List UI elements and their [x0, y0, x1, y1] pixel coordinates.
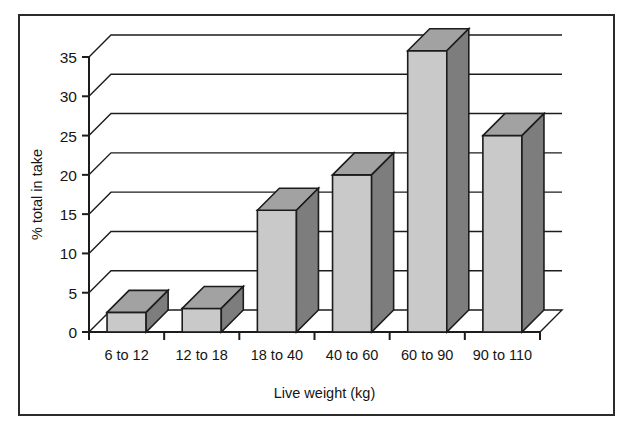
x-axis-category-label: 6 to 12: [104, 347, 148, 363]
y-axis-tick-label: 15: [60, 206, 77, 223]
x-axis-category-label: 60 to 90: [401, 347, 453, 363]
bar-column: [333, 153, 394, 332]
gridline: [89, 74, 562, 96]
bar-column: [408, 29, 469, 332]
x-axis-category-label: 12 to 18: [176, 347, 228, 363]
x-axis-category-label: 40 to 60: [326, 347, 378, 363]
bar-column: [257, 188, 318, 332]
bar-front-face: [408, 51, 447, 332]
y-axis-tick-label: 20: [60, 167, 78, 184]
bar-front-face: [333, 175, 372, 332]
y-axis-tick-label: 0: [68, 324, 77, 341]
y-axis-title: % total in take: [29, 149, 45, 240]
bar-side-face: [296, 188, 318, 332]
gridline-path: [89, 35, 562, 57]
bar-side-face: [447, 29, 469, 332]
bar-front-face: [182, 308, 221, 332]
bar-side-face: [372, 153, 394, 332]
y-axis-tick-label: 25: [60, 128, 77, 145]
chart-border-frame: 051015202530356 to 1212 to 1818 to 4040 …: [18, 14, 615, 416]
y-axis-tick-label: 10: [60, 245, 78, 262]
chart-figure: 051015202530356 to 1212 to 1818 to 4040 …: [0, 0, 632, 433]
x-axis-category-label: 90 to 110: [473, 347, 532, 363]
x-axis-category-label: 18 to 40: [251, 347, 303, 363]
bar-front-face: [107, 312, 146, 332]
y-axis-tick-label: 35: [60, 49, 77, 66]
bar-column: [483, 114, 544, 332]
y-axis-tick-label: 5: [68, 285, 77, 302]
y-axis-tick-label: 30: [60, 88, 78, 105]
x-axis-title: Live weight (kg): [274, 385, 376, 401]
gridline: [89, 35, 562, 57]
bar-chart-plot: 051015202530356 to 1212 to 1818 to 4040 …: [20, 16, 613, 414]
bar-front-face: [483, 136, 522, 332]
bar-side-face: [522, 114, 544, 332]
gridline-path: [89, 74, 562, 96]
bar-front-face: [257, 210, 296, 332]
